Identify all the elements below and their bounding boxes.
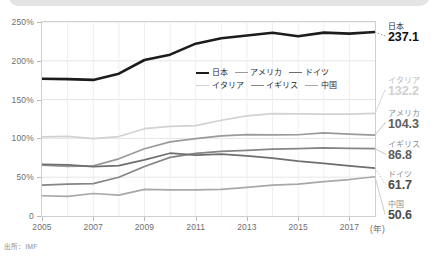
x-axis-label: 2009 (124, 222, 164, 232)
x-axis-unit: (年) (370, 222, 400, 234)
legend-item-日本: 日本 (196, 67, 228, 78)
legend: 日本アメリカドイツイタリアイギリス中国 (196, 67, 366, 93)
y-axis-label: 0 (0, 211, 34, 221)
x-axis-label: 2013 (227, 222, 267, 232)
source-note: 出所：IMF (4, 241, 37, 251)
leader-line-アメリカ (375, 123, 386, 135)
x-axis-label: 2007 (73, 222, 113, 232)
legend-swatch-icon (305, 85, 318, 86)
series-line-イタリア (42, 113, 375, 138)
series-line-ドイツ (42, 153, 375, 168)
legend-item-アメリカ: アメリカ (235, 67, 283, 78)
x-axis-label: 2015 (278, 222, 318, 232)
x-axis-label: 2011 (176, 222, 216, 232)
legend-swatch-icon (289, 72, 302, 73)
leader-line-中国 (375, 177, 386, 214)
end-label-value: 50.6 (388, 209, 412, 222)
end-label-value: 104.3 (388, 118, 420, 131)
leader-line-日本 (375, 32, 386, 36)
x-axis-tick (196, 217, 197, 221)
y-axis-label: 100% (0, 133, 34, 143)
legend-label: アメリカ (250, 67, 282, 78)
y-axis-label: 50% (0, 172, 34, 182)
chart-page: 250%200%150%100%50%0 2005200720092011201… (0, 0, 437, 262)
end-label-中国: 中国50.6 (388, 200, 412, 222)
end-label-value: 86.8 (388, 149, 420, 162)
end-label-value: 132.2 (388, 85, 420, 98)
x-axis-tick (298, 217, 299, 221)
plot-area (41, 21, 376, 217)
end-label-value: 61.7 (388, 179, 412, 192)
x-axis-tick (144, 217, 145, 221)
x-axis-tick (349, 217, 350, 221)
y-axis-label: 200% (0, 56, 34, 66)
legend-swatch-icon (196, 85, 209, 86)
y-axis-label: 150% (0, 95, 34, 105)
end-label-value: 237.1 (388, 31, 419, 44)
leader-line-イタリア (375, 90, 386, 113)
end-label-ドイツ: ドイツ61.7 (388, 170, 412, 192)
legend-item-イタリア: イタリア (196, 80, 244, 91)
legend-swatch-icon (196, 72, 209, 74)
legend-item-イギリス: イギリス (251, 80, 299, 91)
legend-label: 中国 (321, 80, 337, 91)
x-axis-tick (93, 217, 94, 221)
legend-item-中国: 中国 (305, 80, 337, 91)
y-axis-label: 250% (0, 17, 34, 27)
legend-label: ドイツ (305, 67, 329, 78)
series-end-labels: 日本237.1イタリア132.2アメリカ104.3イギリス86.8ドイツ61.7… (388, 18, 437, 218)
end-label-アメリカ: アメリカ104.3 (388, 109, 420, 131)
x-axis-tick (42, 217, 43, 221)
series-line-中国 (42, 177, 375, 197)
legend-swatch-icon (251, 85, 264, 86)
x-axis-label: 2017 (329, 222, 369, 232)
end-label-日本: 日本237.1 (388, 22, 419, 44)
x-axis-label: 2005 (22, 222, 62, 232)
end-label-イタリア: イタリア132.2 (388, 76, 420, 98)
line-chart-svg (42, 22, 375, 216)
end-label-イギリス: イギリス86.8 (388, 140, 420, 162)
card-top-edge (9, 0, 429, 6)
legend-label: イギリス (266, 80, 298, 91)
legend-label: イタリア (212, 80, 244, 91)
leader-line-イギリス (375, 149, 386, 154)
legend-label: 日本 (212, 67, 228, 78)
legend-swatch-icon (235, 72, 248, 73)
leader-line-ドイツ (375, 168, 386, 184)
x-axis-tick (247, 217, 248, 221)
legend-item-ドイツ: ドイツ (289, 67, 329, 78)
